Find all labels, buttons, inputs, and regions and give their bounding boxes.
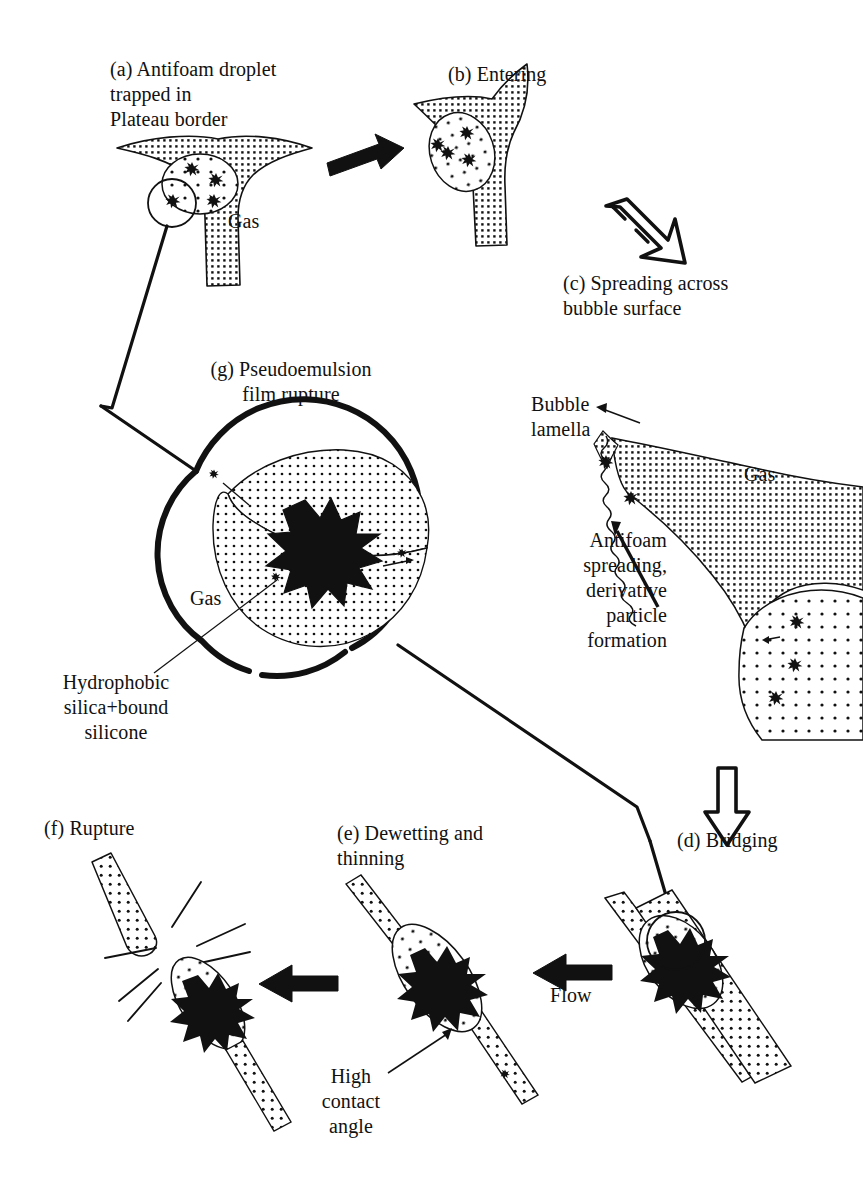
stage-d-caption: (d) Bridging	[677, 828, 778, 853]
retracted-film-f	[92, 853, 157, 956]
stage-g-pseudoemulsion-film-rupture	[154, 399, 429, 676]
arrow-b-to-c-icon	[606, 199, 685, 263]
leader-line-a-to-g	[101, 226, 196, 471]
stage-b-entering	[414, 64, 528, 246]
figure-canvas: (a) Antifoam droplet trapped in Plateau …	[0, 0, 863, 1187]
stage-d-bridging	[605, 890, 791, 1083]
stage-a-plateau-border	[117, 136, 312, 286]
stage-c-caption: (c) Spreading across bubble surface	[563, 271, 728, 321]
magnifier-circle-g-bottom	[262, 652, 345, 676]
high-contact-angle-label: High contact angle	[297, 1064, 405, 1139]
stage-f-rupture	[92, 853, 291, 1131]
pointer-bubble-lamella-icon	[596, 403, 640, 423]
stage-f-caption: (f) Rupture	[44, 816, 135, 841]
stage-g-caption: (g) Pseudoemulsion film rupture	[161, 357, 421, 407]
antifoam-droplet-a	[162, 154, 238, 214]
leader-line-g-to-d	[398, 645, 672, 916]
arrow-e-to-f-icon	[259, 965, 338, 1002]
arrow-a-to-b-icon	[327, 134, 404, 176]
bubble-lamella-label: Bubble lamella	[531, 392, 591, 442]
silica-particle	[209, 469, 219, 478]
trailing-film-f	[226, 1041, 291, 1131]
stage-b-caption: (b) Entering	[448, 62, 546, 87]
antifoam-droplet-c	[739, 590, 863, 740]
flow-label-right: Flow	[550, 983, 592, 1008]
stage-g-gas-label: Gas	[190, 586, 221, 611]
stage-e-caption: (e) Dewetting and thinning	[337, 821, 483, 871]
diagram-artwork	[0, 0, 863, 1187]
stage-a-caption: (a) Antifoam droplet trapped in Plateau …	[110, 57, 276, 132]
stage-c-gas-label: Gas	[744, 462, 775, 487]
hydrophobic-silica-label: Hydrophobic silica+bound silicone	[28, 670, 204, 745]
stage-a-gas-label: Gas	[228, 209, 259, 234]
antifoam-spreading-label: Antifoam spreading, derivative particle …	[503, 528, 667, 653]
